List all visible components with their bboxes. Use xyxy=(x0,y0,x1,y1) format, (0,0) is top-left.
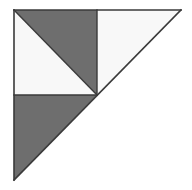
geometric-figure xyxy=(0,0,192,190)
figure-canvas xyxy=(0,0,192,190)
